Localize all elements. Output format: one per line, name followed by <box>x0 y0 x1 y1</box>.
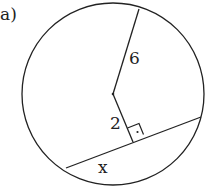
center-point <box>112 93 115 96</box>
distance-label: 2 <box>110 113 121 133</box>
chord-line <box>66 117 201 168</box>
chord-label: x <box>98 157 108 177</box>
part-label: a) <box>0 4 17 24</box>
diagram: a) 6 2 x <box>0 0 210 189</box>
radius-label: 6 <box>129 48 140 68</box>
circle-diagram: a) 6 2 x <box>0 0 210 189</box>
right-angle-dot <box>136 131 138 133</box>
right-angle-marker <box>128 124 144 135</box>
